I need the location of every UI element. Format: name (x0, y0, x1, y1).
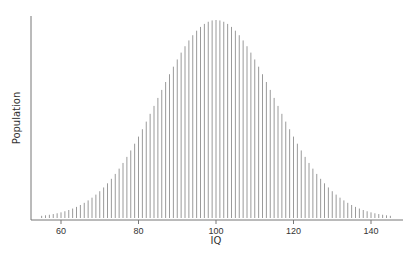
x-ticks: 6080100120140 (56, 220, 379, 236)
x-tick-label: 120 (286, 226, 301, 236)
iq-distribution-chart: 6080100120140 IQ Population (0, 0, 417, 256)
x-tick-label: 80 (133, 226, 143, 236)
x-axis-title: IQ (211, 235, 222, 246)
x-tick-label: 140 (363, 226, 378, 236)
x-tick-label: 60 (56, 226, 66, 236)
y-axis-title: Population (11, 92, 22, 145)
bars-group (42, 20, 391, 218)
